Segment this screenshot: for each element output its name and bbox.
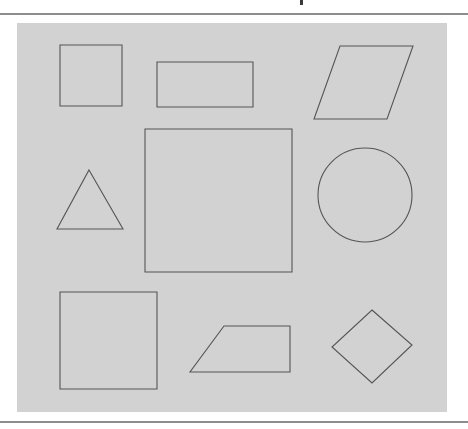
square-top-left [60,45,122,106]
rectangle-top-middle [157,62,253,107]
shapes-figure-canvas [17,23,447,412]
bottom-horizontal-rule [0,421,468,423]
circle-right [318,148,412,242]
diamond-bottom-right [332,310,412,383]
square-bottom-left [60,292,157,389]
parallelogram-top-right [314,46,413,119]
triangle-left [57,170,123,229]
shapes-svg [17,23,447,412]
clipped-text-fragment [300,0,303,5]
trapezoid-bottom-middle [190,326,290,372]
page-root [0,0,468,429]
top-horizontal-rule [0,13,468,15]
square-center-large [145,129,292,272]
